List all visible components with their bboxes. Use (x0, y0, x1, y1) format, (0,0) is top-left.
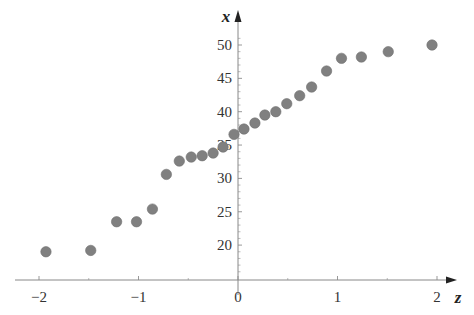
data-point (174, 156, 184, 166)
x-tick-label: −1 (131, 289, 147, 305)
data-point (271, 107, 281, 117)
data-point (260, 110, 270, 120)
y-tick-label: 45 (217, 70, 232, 86)
x-axis-arrow-icon (446, 277, 457, 284)
y-tick-label: 25 (217, 204, 232, 220)
data-point (294, 90, 304, 100)
y-tick-label: 50 (217, 37, 232, 53)
data-point (336, 53, 346, 63)
x-tick-label: 1 (334, 289, 342, 305)
data-point (86, 245, 96, 255)
data-point (356, 52, 366, 62)
data-point (186, 152, 196, 162)
y-axis-arrow-icon (235, 10, 242, 22)
x-axis-label: z (454, 288, 462, 307)
data-point (197, 151, 207, 161)
y-tick-label: 30 (217, 170, 232, 186)
data-point (239, 124, 249, 134)
data-point (250, 118, 260, 128)
data-point (131, 217, 141, 227)
data-point (41, 247, 51, 257)
data-point (383, 46, 393, 56)
data-point (161, 169, 171, 179)
data-point (208, 148, 218, 158)
x-tick-label: 2 (433, 289, 441, 305)
data-points (41, 40, 437, 257)
x-tick-labels: −2−1012 (31, 289, 441, 305)
data-point (147, 204, 157, 214)
data-point (111, 217, 121, 227)
scatter-chart: −2−1012 20253035404550 z x (0, 0, 474, 315)
x-tick-label: 0 (234, 289, 242, 305)
data-point (229, 129, 239, 139)
y-axis-label: x (221, 7, 231, 26)
x-tick-label: −2 (31, 289, 47, 305)
data-point (427, 40, 437, 50)
data-point (282, 98, 292, 108)
y-tick-label: 40 (217, 104, 232, 120)
y-tick-label: 20 (217, 237, 232, 253)
data-point (321, 66, 331, 76)
data-point (306, 82, 316, 92)
data-point (218, 142, 228, 152)
